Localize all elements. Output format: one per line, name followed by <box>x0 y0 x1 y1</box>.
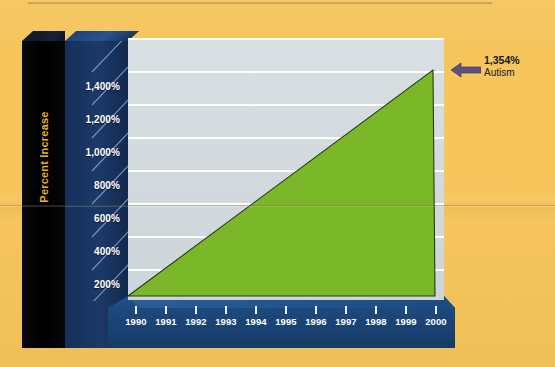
x-tick <box>405 306 407 314</box>
y-tick-label: 1,000% <box>64 147 120 158</box>
callout-label: Autism <box>484 67 550 80</box>
y-tick-label: 800% <box>64 180 120 191</box>
autism-area-series <box>128 38 444 300</box>
x-tick <box>165 306 167 314</box>
y-tick-label: 200% <box>64 279 120 290</box>
plot-area <box>128 38 444 300</box>
x-tick <box>135 306 137 314</box>
x-axis-ticks <box>128 306 444 315</box>
y-tick-label: 1,200% <box>64 114 120 125</box>
x-axis-labels: 1990 1991 1992 1993 1994 1995 1996 1997 … <box>108 316 458 332</box>
y-axis-labels: 1,400% 1,200% 1,000% 800% 600% 400% 200% <box>65 38 123 300</box>
x-tick <box>315 306 317 314</box>
x-tick-label: 2000 <box>416 316 456 327</box>
callout-text-block: 1,354% Autism <box>484 54 550 79</box>
x-tick <box>195 306 197 314</box>
y-tick-label: 600% <box>64 213 120 224</box>
x-tick <box>345 306 347 314</box>
x-tick <box>285 306 287 314</box>
page-canvas: Percent Increase <box>0 0 555 367</box>
x-tick <box>375 306 377 314</box>
y-axis-title: Percent Increase <box>38 50 50 265</box>
callout-value: 1,354% <box>484 54 550 67</box>
x-tick <box>225 306 227 314</box>
y-tick-label: 1,400% <box>64 81 120 92</box>
y-tick-label: 400% <box>64 246 120 257</box>
autism-callout: 1,354% Autism <box>451 54 551 88</box>
axis-title-panel: Percent Increase <box>22 41 65 348</box>
black-panel-top-face <box>33 31 65 41</box>
series-area-autism <box>128 70 435 296</box>
percent-increase-chart: Percent Increase <box>0 0 555 367</box>
x-tick <box>435 306 437 314</box>
left-arrow-icon <box>451 62 481 78</box>
x-tick <box>255 306 257 314</box>
